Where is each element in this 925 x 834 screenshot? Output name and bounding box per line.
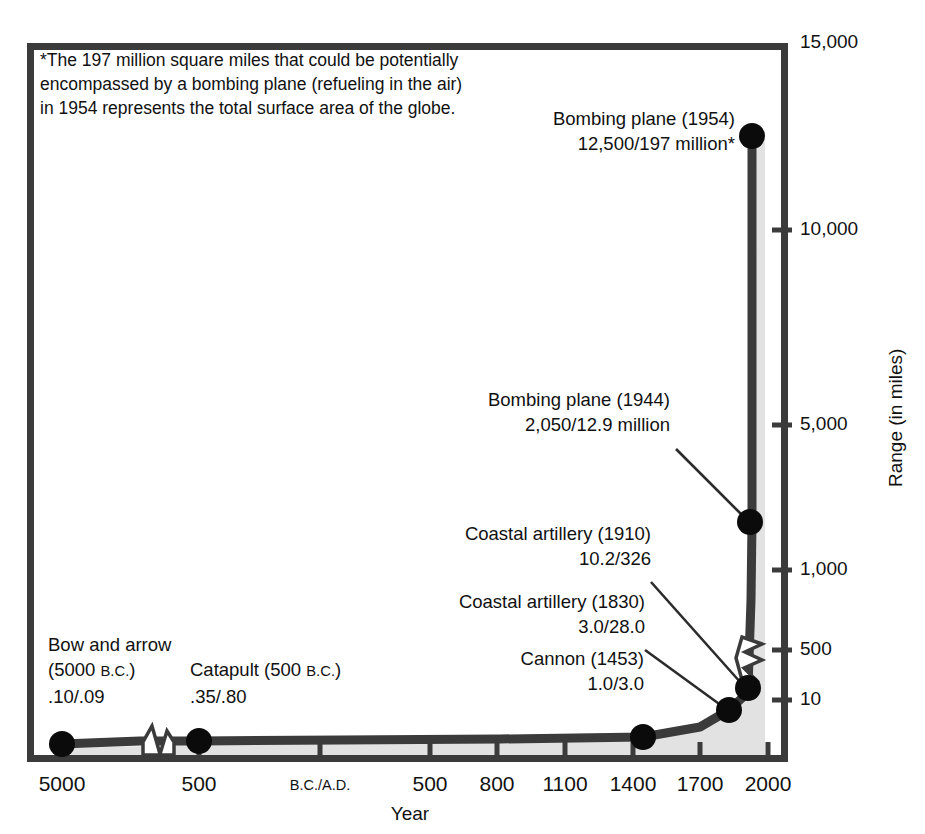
chart-figure: *The 197 million square miles that could… [0,0,925,834]
annotation-bombing-plane-1954: Bombing plane (1954) 12,500/197 million* [460,106,735,156]
y-tick-label-5000: 5,000 [800,413,848,435]
y-tick-label-15000: 15,000 [800,31,858,53]
annotation-bomber-1954-line2: 12,500/197 million* [460,131,735,156]
annotation-catapult-line2: .35/.80 [190,684,440,709]
annotation-bomber-1954-line1: Bombing plane (1954) [460,106,735,131]
annotation-coastal-1910-line1: Coastal artillery (1910) [370,521,651,546]
y-tick-label-1000: 1,000 [800,558,848,580]
footnote-text: *The 197 million square miles that could… [40,48,470,120]
x-tick-label-bcad: B.C./A.D. [260,777,380,793]
leader-line-1830 [645,650,722,706]
x-tick-label-2000: 2000 [708,772,828,796]
annotation-leader-lines [645,449,745,706]
y-tick-label-10: 10 [800,688,821,710]
y-axis-title: Range (in miles) [885,349,907,487]
data-point-bow-and-arrow [49,731,75,757]
y-axis-ticks [772,230,792,700]
annotation-bomber-1944-line1: Bombing plane (1944) [400,387,670,412]
data-point-bomber-1954 [739,123,765,149]
annotation-coastal-1910-line2: 10.2/326 [370,546,651,571]
annotation-catapult-line1: Catapult (500 B.C.) [190,657,440,684]
annotation-coastal-1830-line2: 3.0/28.0 [370,614,645,639]
annotation-cannon-line1: Cannon (1453) [404,646,644,671]
data-point-cannon [630,724,656,750]
data-point-bomber-1944 [737,509,763,535]
leader-line-1910 [651,582,741,683]
annotation-cannon: Cannon (1453) 1.0/3.0 [404,646,644,696]
annotation-coastal-artillery-1910: Coastal artillery (1910) 10.2/326 [370,521,651,571]
annotation-bombing-plane-1944: Bombing plane (1944) 2,050/12.9 million [400,387,670,437]
annotation-coastal-1830-line1: Coastal artillery (1830) [370,589,645,614]
x-tick-label-500bc: 500 [139,772,259,796]
data-point-coastal-1830 [716,697,742,723]
annotation-catapult: Catapult (500 B.C.) .35/.80 [190,657,440,709]
range-curve-vertical [748,136,752,688]
annotation-bomber-1944-line2: 2,050/12.9 million [400,412,670,437]
data-point-coastal-1910 [735,675,761,701]
annotation-cannon-line2: 1.0/3.0 [404,671,644,696]
x-tick-label-5000bc: 5000 [2,772,122,796]
x-axis-title: Year [310,803,510,825]
annotation-bow-and-arrow-line1: Bow and arrow [48,632,278,657]
y-tick-label-10000: 10,000 [800,218,858,240]
y-tick-label-500: 500 [800,638,832,660]
annotation-coastal-artillery-1830: Coastal artillery (1830) 3.0/28.0 [370,589,645,639]
data-point-catapult [186,728,212,754]
leader-line-1944 [676,449,745,518]
